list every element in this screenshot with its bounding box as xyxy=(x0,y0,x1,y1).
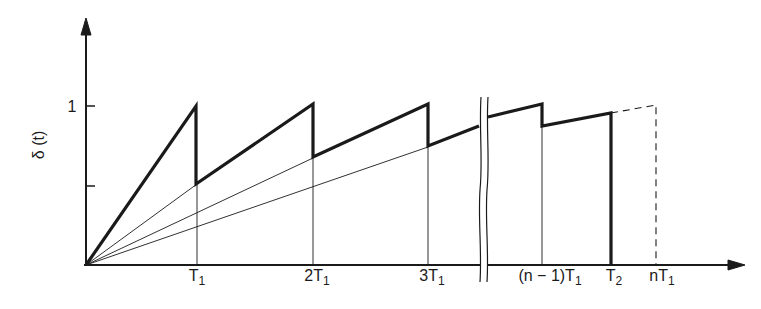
guide-rays xyxy=(86,147,428,265)
x-tick-label-2T1: 2T1 xyxy=(304,267,330,288)
dashed-continuation xyxy=(611,105,656,265)
axis-break xyxy=(479,97,488,282)
y-axis-label: δ (t) xyxy=(30,131,47,159)
y-axis-arrow-icon xyxy=(81,18,91,35)
x-tick-label-3T1: 3T1 xyxy=(419,267,445,288)
sawtooth-diagram: 1 δ (t) T1 2T1 3T1 (n − 1)T1 T2 nT1 xyxy=(0,0,761,309)
x-axis-arrow-icon xyxy=(728,260,745,270)
x-tick-label-n-minus-1-T1: (n − 1)T1 xyxy=(518,267,581,288)
sawtooth-curve xyxy=(86,104,611,265)
x-tick-label-T1: T1 xyxy=(189,267,206,288)
x-tick-labels: T1 2T1 3T1 (n − 1)T1 T2 nT1 xyxy=(189,267,675,288)
x-tick-label-T2: T2 xyxy=(606,267,623,288)
x-tick-label-nT1: nT1 xyxy=(649,267,675,288)
y-tick-label-1: 1 xyxy=(68,98,77,115)
